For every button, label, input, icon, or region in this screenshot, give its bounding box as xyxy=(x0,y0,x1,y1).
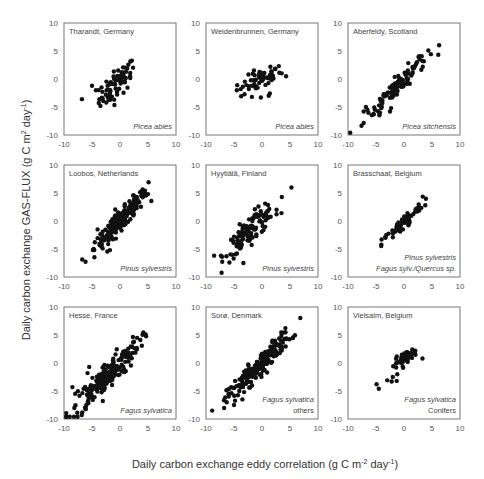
data-point xyxy=(380,98,384,102)
data-point xyxy=(128,59,132,63)
data-point xyxy=(113,352,117,356)
data-point xyxy=(279,211,283,215)
data-point xyxy=(252,79,256,83)
x-tick-label: 5 xyxy=(146,140,151,149)
y-tick-label: -5 xyxy=(193,103,201,112)
data-point xyxy=(124,350,128,354)
y-tick-label: 0 xyxy=(196,359,201,368)
data-point xyxy=(231,238,235,242)
x-tick-label: -10 xyxy=(342,424,354,433)
y-tick-label: -10 xyxy=(46,415,58,424)
data-point xyxy=(250,84,254,88)
data-point xyxy=(239,87,243,91)
x-tick-label: -10 xyxy=(58,140,70,149)
data-point xyxy=(133,350,137,354)
y-tick-label: -10 xyxy=(330,415,342,424)
data-point xyxy=(437,43,441,47)
x-tick-label: -5 xyxy=(230,424,238,433)
data-point xyxy=(235,244,239,248)
data-point xyxy=(92,255,96,259)
plot-frame xyxy=(64,307,176,419)
data-point xyxy=(240,379,244,383)
data-point xyxy=(90,84,94,88)
data-point xyxy=(264,354,268,358)
data-point xyxy=(113,230,117,234)
data-point xyxy=(121,91,125,95)
data-point xyxy=(101,399,105,403)
data-point xyxy=(116,373,120,377)
data-point xyxy=(149,199,153,203)
data-point xyxy=(104,79,108,83)
data-point xyxy=(91,398,95,402)
panel-grid: -10-50510-10-50510Tharandt, GermanyPicea… xyxy=(46,19,465,433)
y-tick-label: -10 xyxy=(330,131,342,140)
data-point xyxy=(284,74,288,78)
data-point xyxy=(261,77,265,81)
y-tick-label: 0 xyxy=(54,359,59,368)
data-point xyxy=(291,336,295,340)
data-point xyxy=(100,365,104,369)
data-point xyxy=(70,385,74,389)
y-axis-label: Daily carbon exchange GAS-FLUX (g C m2 d… xyxy=(20,100,32,341)
data-point xyxy=(247,385,251,389)
x-tick-label: 0 xyxy=(260,282,265,291)
scatter-panel: -10-50510-10-50510Vielsalm, BelgiumFagus… xyxy=(330,303,465,433)
data-point xyxy=(236,393,240,397)
data-point xyxy=(381,93,385,97)
y-tick-label: 0 xyxy=(338,75,343,84)
data-point xyxy=(264,211,268,215)
data-point xyxy=(235,83,239,87)
y-tick-label: 0 xyxy=(54,217,59,226)
species-label: Pinus sylvestris xyxy=(120,264,172,273)
data-point xyxy=(115,92,119,96)
y-tick-label: 10 xyxy=(333,303,342,312)
data-point xyxy=(102,236,106,240)
x-tick-label: -5 xyxy=(372,282,380,291)
y-tick-label: -10 xyxy=(330,273,342,282)
x-tick-label: -10 xyxy=(342,282,354,291)
data-point xyxy=(146,192,150,196)
data-point xyxy=(277,351,281,355)
data-point xyxy=(120,355,124,359)
data-point xyxy=(123,65,127,69)
x-tick-label: 10 xyxy=(456,140,465,149)
data-point xyxy=(391,231,395,235)
data-point xyxy=(210,408,214,412)
data-point xyxy=(102,388,106,392)
data-point xyxy=(73,403,77,407)
panel-site-title: Sorø, Denmark xyxy=(211,311,262,320)
data-point xyxy=(396,79,400,83)
x-tick-label: -10 xyxy=(200,140,212,149)
data-point xyxy=(386,231,390,235)
data-point xyxy=(247,87,251,91)
y-tick-label: -5 xyxy=(335,245,343,254)
y-tick-label: -5 xyxy=(335,103,343,112)
data-point xyxy=(136,198,140,202)
data-point xyxy=(395,372,399,376)
data-point xyxy=(101,99,105,103)
data-point xyxy=(410,347,414,351)
data-point xyxy=(146,180,150,184)
x-tick-label: 0 xyxy=(118,140,123,149)
figure: -10-50510-10-50510Tharandt, GermanyPicea… xyxy=(0,0,484,479)
data-point xyxy=(283,330,287,334)
data-point xyxy=(252,226,256,230)
x-tick-label: 10 xyxy=(172,424,181,433)
data-point xyxy=(93,240,97,244)
data-point xyxy=(107,97,111,101)
data-point xyxy=(389,106,393,110)
data-point xyxy=(83,260,87,264)
data-point xyxy=(244,382,248,386)
x-tick-label: -5 xyxy=(88,140,96,149)
data-point xyxy=(379,106,383,110)
x-tick-label: 10 xyxy=(314,424,323,433)
y-tick-label: 10 xyxy=(191,303,200,312)
data-point xyxy=(260,220,264,224)
panel-site-title: Hyytiälä, Finland xyxy=(211,169,266,178)
data-point xyxy=(273,67,277,71)
data-point xyxy=(249,243,253,247)
data-point xyxy=(390,93,394,97)
y-tick-label: 0 xyxy=(196,75,201,84)
species-label: others xyxy=(293,406,314,415)
data-point xyxy=(247,217,251,221)
